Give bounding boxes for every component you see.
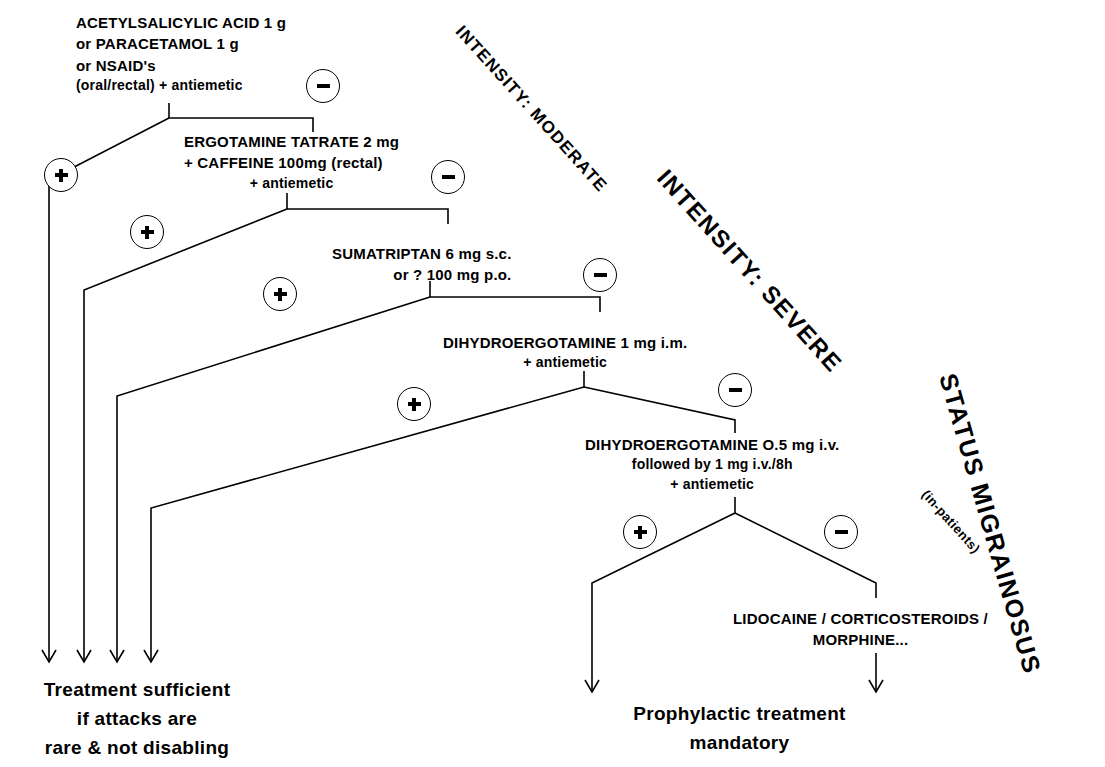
step-4-dihydroergotamine-im: DIHYDROERGOTAMINE 1 mg i.m. + antiemetic xyxy=(443,332,687,373)
outcome-sufficient-line-3: rare & not disabling xyxy=(12,734,262,763)
branch-4-plus xyxy=(151,387,584,660)
arrowhead-2 xyxy=(77,650,91,662)
step-4-line-1: DIHYDROERGOTAMINE 1 mg i.m. xyxy=(443,332,687,353)
plus-glyph-v xyxy=(638,526,641,539)
branch-4-minus xyxy=(584,387,735,433)
minus-circle-icon-4 xyxy=(718,373,752,407)
minus-circle-icon-2 xyxy=(431,160,465,194)
step-2-line-3: + antiemetic xyxy=(184,174,399,194)
step-5-dihydroergotamine-iv: DIHYDROERGOTAMINE O.5 mg i.v. followed b… xyxy=(585,434,839,495)
step-2-line-1: ERGOTAMINE TATRATE 2 mg xyxy=(184,131,399,152)
step-3-sumatriptan: SUMATRIPTAN 6 mg s.c. or ? 100 mg p.o. xyxy=(332,243,512,286)
branch-1-plus xyxy=(49,118,169,660)
branch-2-plus xyxy=(84,209,287,660)
step-6-lidocaine-corticosteroids-morphine: LIDOCAINE / CORTICOSTEROIDS / MORPHINE..… xyxy=(733,608,988,651)
minus-glyph xyxy=(442,175,455,178)
step-2-ergotamine-tartrate: ERGOTAMINE TATRATE 2 mg + CAFFEINE 100mg… xyxy=(184,131,399,193)
outcome-sufficient-line-1: Treatment sufficient xyxy=(12,676,262,705)
step-1-line-1: ACETYLSALICYLIC ACID 1 g xyxy=(76,12,286,33)
plus-circle-icon-5 xyxy=(623,515,657,549)
outcome-prophylactic-line-1: Prophylactic treatment xyxy=(592,700,887,729)
branch-1-minus xyxy=(169,118,313,132)
minus-circle-icon-5 xyxy=(824,515,858,549)
step-1-line-2: or PARACETAMOL 1 g xyxy=(76,33,286,54)
step-1-line-3: or NSAID's xyxy=(76,55,286,76)
arrowhead-5 xyxy=(585,680,599,692)
arrowhead-1 xyxy=(42,650,56,662)
branch-3-plus xyxy=(117,297,430,660)
minus-glyph xyxy=(729,388,742,391)
branch-5-plus xyxy=(592,513,735,690)
plus-glyph-v xyxy=(412,398,415,411)
step-1-acetylsalicylic-acid: ACETYLSALICYLIC ACID 1 g or PARACETAMOL … xyxy=(76,12,286,96)
outcome-sufficient-line-2: if attacks are xyxy=(12,705,262,734)
step-5-line-3: + antiemetic xyxy=(585,475,839,495)
minus-glyph xyxy=(594,273,607,276)
minus-circle-icon-1 xyxy=(306,69,340,103)
outcome-prophylactic-line-2: mandatory xyxy=(592,729,887,758)
step-6-line-1: LIDOCAINE / CORTICOSTEROIDS / xyxy=(733,608,988,629)
plus-glyph-v xyxy=(278,288,281,301)
step-4-line-2: + antiemetic xyxy=(443,353,687,373)
plus-glyph-v xyxy=(59,169,62,182)
step-1-line-4: (oral/rectal) + antiemetic xyxy=(76,76,286,96)
step-6-line-2: MORPHINE... xyxy=(733,629,988,650)
step-5-line-2: followed by 1 mg i.v./8h xyxy=(585,455,839,475)
plus-circle-icon-2 xyxy=(130,215,164,249)
arrowhead-6 xyxy=(869,680,883,692)
banner-intensity-moderate: INTENSITY: MODERATE xyxy=(451,22,611,196)
minus-glyph xyxy=(317,84,330,87)
step-3-line-2: or ? 100 mg p.o. xyxy=(332,264,512,285)
plus-circle-icon-4 xyxy=(397,387,431,421)
plus-circle-icon-1 xyxy=(44,158,78,192)
branch-2-minus xyxy=(287,209,448,224)
outcome-treatment-sufficient: Treatment sufficient if attacks are rare… xyxy=(12,676,262,763)
plus-circle-icon-3 xyxy=(263,277,297,311)
migraine-treatment-flowchart: ACETYLSALICYLIC ACID 1 g or PARACETAMOL … xyxy=(0,0,1105,767)
arrowhead-3 xyxy=(110,650,124,662)
banner-status-line-1: STATUS xyxy=(934,370,990,480)
plus-glyph-v xyxy=(145,226,148,239)
outcome-prophylactic-treatment: Prophylactic treatment mandatory xyxy=(592,700,887,758)
branch-3-minus xyxy=(430,297,600,312)
step-3-line-1: SUMATRIPTAN 6 mg s.c. xyxy=(332,243,512,264)
arrowhead-4 xyxy=(144,650,158,662)
step-2-line-2: + CAFFEINE 100mg (rectal) xyxy=(184,152,399,173)
minus-circle-icon-3 xyxy=(583,258,617,292)
minus-glyph xyxy=(835,530,848,533)
step-5-line-1: DIHYDROERGOTAMINE O.5 mg i.v. xyxy=(585,434,839,455)
